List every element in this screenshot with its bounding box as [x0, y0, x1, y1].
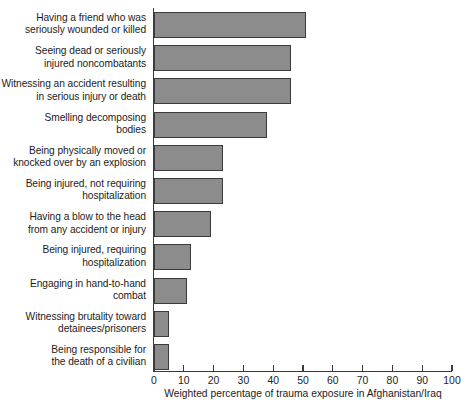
x-tick [332, 365, 333, 371]
category-label-line: Witnessing brutality toward [0, 311, 146, 324]
category-label-line: Having a friend who was [0, 12, 146, 25]
category-label-line: Being injured, not requiring [0, 178, 146, 191]
bar [154, 344, 169, 370]
category-label-line: knocked over by an explosion [0, 157, 146, 170]
category-label-line: from any accident or injury [0, 224, 146, 237]
bar [154, 78, 291, 104]
category-label-line: Having a blow to the head [0, 211, 146, 224]
bar [154, 12, 306, 38]
category-label: Smelling decomposingbodies [0, 112, 146, 137]
category-label-line: Being injured, requiring [0, 244, 146, 257]
x-tick [422, 365, 423, 371]
category-label-line: seriously wounded or killed [0, 24, 146, 37]
category-label: Being injured, requiringhospitalization [0, 244, 146, 269]
category-label-line: bodies [0, 124, 146, 137]
bar [154, 45, 291, 71]
category-label: Having a friend who wasseriously wounded… [0, 12, 146, 37]
x-axis-title: Weighted percentage of trauma exposure i… [153, 388, 453, 399]
category-label-line: the death of a civilian [0, 356, 146, 369]
category-label-line: hospitalization [0, 257, 146, 270]
category-label: Being injured, not requiringhospitalizat… [0, 178, 146, 203]
category-label-line: Being responsible for [0, 344, 146, 357]
category-label-line: in serious injury or death [0, 91, 146, 104]
x-tick [213, 365, 214, 371]
category-label: Witnessing brutality towarddetainees/pri… [0, 311, 146, 336]
bar [154, 278, 187, 304]
x-tick [183, 365, 184, 371]
category-label-line: Witnessing an accident resulting [0, 78, 146, 91]
x-tick [153, 365, 154, 371]
bar-chart-figure: Having a friend who wasseriously wounded… [0, 0, 471, 406]
bar [154, 311, 169, 337]
x-tick [273, 365, 274, 371]
y-axis-line [153, 8, 154, 372]
category-label: Engaging in hand-to-handcombat [0, 278, 146, 303]
category-label-line: Being physically moved or [0, 145, 146, 158]
category-label: Being physically moved orknocked over by… [0, 145, 146, 170]
x-tick [392, 365, 393, 371]
category-labels: Having a friend who wasseriously wounded… [0, 0, 150, 372]
plot-area: Having a friend who wasseriously wounded… [0, 0, 471, 406]
category-label-line: Smelling decomposing [0, 112, 146, 125]
category-label-line: injured noncombatants [0, 58, 146, 71]
bar [154, 145, 223, 171]
bar [154, 112, 267, 138]
category-label: Witnessing an accident resultingin serio… [0, 78, 146, 103]
bar [154, 178, 223, 204]
category-label-line: Seeing dead or seriously [0, 45, 146, 58]
category-label: Being responsible forthe death of a civi… [0, 344, 146, 369]
category-label: Seeing dead or seriouslyinjured noncomba… [0, 45, 146, 70]
category-label: Having a blow to the headfrom any accide… [0, 211, 146, 236]
category-label-line: hospitalization [0, 190, 146, 203]
x-tick-label: 100 [432, 375, 471, 386]
x-tick [243, 365, 244, 371]
bar [154, 211, 211, 237]
x-axis-line [153, 371, 452, 372]
x-tick [362, 365, 363, 371]
x-tick [302, 365, 303, 371]
category-label-line: detainees/prisoners [0, 323, 146, 336]
category-label-line: combat [0, 290, 146, 303]
category-label-line: Engaging in hand-to-hand [0, 278, 146, 291]
bar [154, 244, 191, 270]
x-tick [451, 365, 452, 371]
